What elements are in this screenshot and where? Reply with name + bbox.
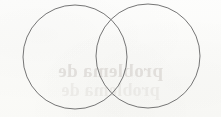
venn-diagram: [0, 0, 221, 117]
scanned-figure-page: problema de problema de: [0, 0, 221, 117]
